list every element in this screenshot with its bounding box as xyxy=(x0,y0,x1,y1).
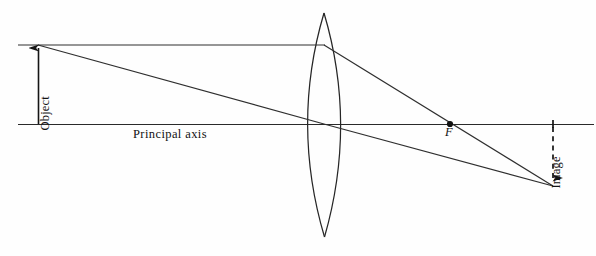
principal-axis-label: Principal axis xyxy=(133,128,207,141)
center-ray-refracted xyxy=(324,124,553,186)
center-ray-incoming xyxy=(38,45,324,124)
image-label: Image xyxy=(550,156,563,188)
parallel-ray-refracted xyxy=(324,45,553,186)
focal-point-label: F xyxy=(445,126,453,139)
object-label: Object xyxy=(39,96,52,131)
optics-ray-diagram-canvas xyxy=(0,0,596,256)
ray-diagram-figure: Object Image Principal axis F xyxy=(0,0,596,256)
